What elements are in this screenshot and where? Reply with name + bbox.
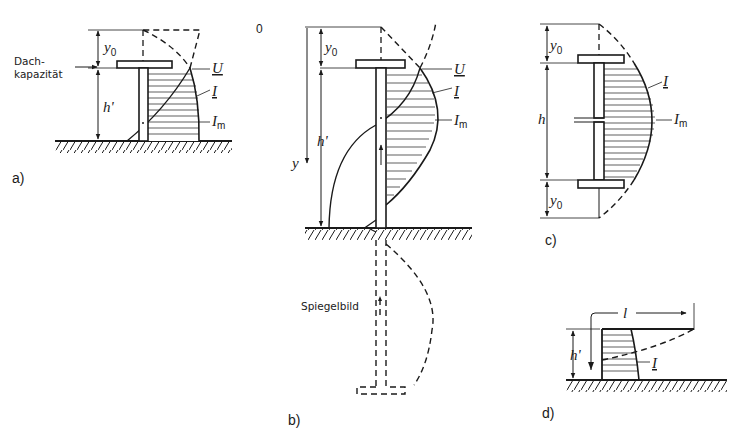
current-label-b: I xyxy=(453,83,460,99)
panel-label-b: b) xyxy=(288,412,300,428)
length-label-d: l xyxy=(623,305,627,321)
current-max-label-c: Im xyxy=(673,111,687,129)
y0-bottom-label-c: y0 xyxy=(548,192,563,211)
current-hatching-b xyxy=(387,75,435,195)
height-label-d: h' xyxy=(570,347,582,363)
antenna-b xyxy=(356,60,405,228)
height-label-a: h' xyxy=(103,99,115,115)
current-curve-extension-d xyxy=(602,329,694,360)
voltage-curve-extension-b xyxy=(420,22,436,68)
origin-label-b: 0 xyxy=(256,22,263,36)
panel-label-a: a) xyxy=(12,170,24,186)
current-label-a: I xyxy=(211,83,218,99)
panel-label-c: c) xyxy=(545,232,557,248)
current-label-d: I xyxy=(651,355,658,371)
panel-c: y0 h y0 I Im c) xyxy=(538,24,687,248)
current-max-label-a: Im xyxy=(211,113,225,131)
ground-d xyxy=(566,380,727,392)
panel-a: Dach- kapazität y0 h' U I Im a) xyxy=(12,30,232,186)
roof-capacity-label-2: kapazität xyxy=(14,68,63,80)
current-label-c: I xyxy=(662,73,669,89)
current-max-label-b: Im xyxy=(453,112,467,130)
panel-b: 0 y xyxy=(256,22,472,428)
height-label-b: h' xyxy=(317,133,329,149)
y0-label-b: y0 xyxy=(323,39,338,58)
antenna-current-distribution-figure: Dach- kapazität y0 h' U I Im a) 0 y xyxy=(0,0,747,445)
current-hatching-c xyxy=(604,69,655,177)
ground-b xyxy=(305,228,472,240)
mirror-image-label: Spiegelbild xyxy=(301,300,359,312)
current-curve-d xyxy=(631,329,639,380)
panel-d: l h' I d) xyxy=(542,303,727,421)
y-axis-label-b: y xyxy=(290,155,299,171)
y0-label-a: y0 xyxy=(102,39,117,58)
length-arrow-d xyxy=(591,313,618,370)
voltage-curve-b xyxy=(329,68,420,228)
mirror-image-b xyxy=(357,240,433,394)
voltage-label-a: U xyxy=(212,60,224,76)
ground-a xyxy=(55,141,232,153)
height-label-c: h xyxy=(538,111,546,127)
voltage-label-b: U xyxy=(454,61,466,77)
y0-top-label-c: y0 xyxy=(548,37,563,56)
current-curve-c xyxy=(634,63,652,180)
current-area-a xyxy=(148,68,199,141)
roof-capacity-label: Dach- xyxy=(14,55,45,67)
panel-label-d: d) xyxy=(542,405,554,421)
